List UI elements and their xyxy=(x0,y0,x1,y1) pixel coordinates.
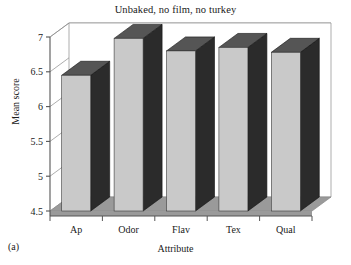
x-tick-label: Odor xyxy=(118,224,139,235)
y-tick-label: 5 xyxy=(38,171,43,182)
y-tick-label: 6.5 xyxy=(31,66,44,77)
y-tick-labels: 4.555.566.57 xyxy=(31,32,44,217)
y-tick-label: 7 xyxy=(38,32,43,43)
y-tick-label: 6 xyxy=(38,101,43,112)
x-tick-label: Flav xyxy=(172,224,190,235)
y-tick-label: 4.5 xyxy=(31,206,44,217)
x-tick-label: Tex xyxy=(226,224,241,235)
x-tick-label: Ap xyxy=(70,224,82,235)
x-tick-label: Qual xyxy=(276,224,296,235)
x-tick-labels: ApOdorFlavTexQual xyxy=(70,224,296,235)
plot-area: 4.555.566.57 ApOdorFlavTexQual xyxy=(0,0,351,265)
chart-figure: Unbaked, no film, no turkey Mean score A… xyxy=(0,0,351,265)
y-tick-label: 5.5 xyxy=(31,136,44,147)
